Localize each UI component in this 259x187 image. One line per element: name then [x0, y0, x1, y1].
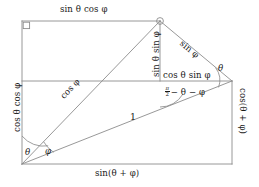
- right-angle-marker: [23, 22, 29, 28]
- label-hypotenuse: 1: [130, 112, 136, 121]
- label-theta-right: θ: [218, 64, 223, 73]
- label-inner-vertical: sin θ sin φ: [152, 31, 161, 77]
- trigonometry-diagram: sin θ cos φ cos θ cos φ sin(θ + φ) cos(θ…: [0, 0, 259, 187]
- label-left-side: cos θ cos φ: [13, 83, 22, 132]
- label-top-side: sin θ cos φ: [60, 5, 108, 14]
- label-theta-bottom: θ: [25, 148, 30, 157]
- complement-rest: − θ − φ: [171, 87, 206, 97]
- main-diagonal-line: [22, 21, 160, 164]
- fraction-denominator: 2: [165, 92, 170, 98]
- label-inner-horizontal: cos θ sin φ: [163, 71, 211, 80]
- diagram-svg: [0, 0, 259, 187]
- label-right-side: cos(θ + φ): [238, 88, 247, 134]
- label-bottom-side: sin(θ + φ): [95, 169, 139, 178]
- label-phi-bottom: φ: [45, 147, 51, 156]
- label-complement-angle: π 2 − θ − φ: [165, 86, 205, 98]
- pi-over-two-fraction: π 2: [165, 86, 170, 98]
